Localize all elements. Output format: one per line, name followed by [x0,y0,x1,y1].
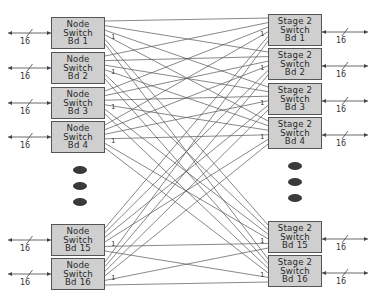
link-width-label: 1 [260,271,264,279]
board-label-line: Bd 15 [282,241,308,250]
board-label-line: Bd 1 [285,34,305,43]
link-width-label: 1 [111,137,115,145]
link-width-label: 1 [260,133,264,141]
arrow-left-icon [322,133,326,137]
link-width-label: 1 [260,99,264,107]
arrow-right-icon [364,237,368,241]
arrow-left-icon [8,101,12,105]
bus-width-label: 16 [20,141,30,150]
stage2-1-board: Stage 2SwitchBd 1 [268,14,322,46]
bus-width-label: 16 [336,243,346,252]
board-label-line: Bd 3 [285,103,305,112]
link-width-label: 1 [111,240,115,248]
bus-width-label: 16 [20,72,30,81]
link-width-label: 1 [111,103,115,111]
node-16-board: NodeSwitchBd 16 [51,258,105,290]
node-1-board: NodeSwitchBd 1 [51,17,105,49]
stage2-15-board: Stage 2SwitchBd 15 [268,221,322,253]
link-width-label: 1 [111,68,115,76]
mesh-link [105,110,268,271]
mesh-link [105,248,268,280]
stage2-16-board: Stage 2SwitchBd 16 [268,255,322,287]
link-width-label: 1 [260,30,264,38]
bus-width-label: 16 [20,244,30,253]
ellipsis-dot [288,178,302,186]
arrow-left-icon [8,135,12,139]
node-3-board: NodeSwitchBd 3 [51,87,105,119]
arrow-left-icon [8,66,12,70]
mesh-link [105,23,268,56]
mesh-link [105,144,268,276]
board-label-line: Bd 4 [68,141,88,150]
arrow-left-icon [8,31,12,35]
link-width-label: 1 [111,274,115,282]
ellipsis-dot [73,166,87,174]
link-width-label: 1 [260,237,264,245]
mesh-link [105,75,268,267]
ellipsis-dot [288,194,302,202]
arrow-right-icon [364,64,368,68]
arrow-left-icon [322,271,326,275]
mesh-link [105,96,268,100]
mesh-link [105,57,268,61]
mesh-link [105,148,268,273]
bus-width-label: 16 [336,36,346,45]
board-label-line: Bd 3 [68,107,88,116]
ellipsis-dot [73,182,87,190]
mesh-link [105,36,268,228]
mesh-link [105,27,268,91]
arrow-left-icon [8,238,12,242]
link-width-label: 1 [260,64,264,72]
mesh-links [105,18,268,285]
bus-width-label: 16 [20,278,30,287]
board-label-line: Bd 1 [68,37,88,46]
node-15-board: NodeSwitchBd 15 [51,224,105,256]
stage2-3-board: Stage 2SwitchBd 3 [268,83,322,115]
board-label-line: Bd 4 [285,137,305,146]
arrow-left-icon [322,99,326,103]
board-label-line: Bd 16 [282,275,308,284]
arrow-right-icon [364,271,368,275]
mesh-link [105,282,268,285]
ellipsis-dots [73,162,302,206]
bus-width-label: 16 [336,277,346,286]
arrow-right-icon [364,30,368,34]
mesh-link [105,41,268,262]
arrow-left-icon [322,30,326,34]
bus-width-label: 16 [20,37,30,46]
node-4-board: NodeSwitchBd 4 [51,121,105,153]
board-label-line: Bd 2 [285,68,305,77]
arrow-left-icon [8,272,12,276]
mesh-link [105,109,268,234]
bus-width-label: 16 [20,107,30,116]
arrow-left-icon [322,237,326,241]
bus-width-label: 16 [336,105,346,114]
bus-width-label: 16 [336,70,346,79]
ellipsis-dot [73,198,87,206]
bus-width-label: 16 [336,139,346,148]
mesh-link [105,143,268,238]
board-label-line: Bd 15 [65,244,91,253]
board-label-line: Bd 2 [68,72,88,81]
link-width-label: 1 [111,33,115,41]
stage2-4-board: Stage 2SwitchBd 4 [268,117,322,149]
board-label-line: Bd 16 [65,278,91,287]
node-2-board: NodeSwitchBd 2 [51,52,105,84]
mesh-link [105,18,268,21]
arrow-right-icon [364,133,368,137]
arrow-left-icon [322,64,326,68]
ellipsis-dot [288,162,302,170]
arrow-right-icon [364,99,368,103]
stage2-2-board: Stage 2SwitchBd 2 [268,48,322,80]
